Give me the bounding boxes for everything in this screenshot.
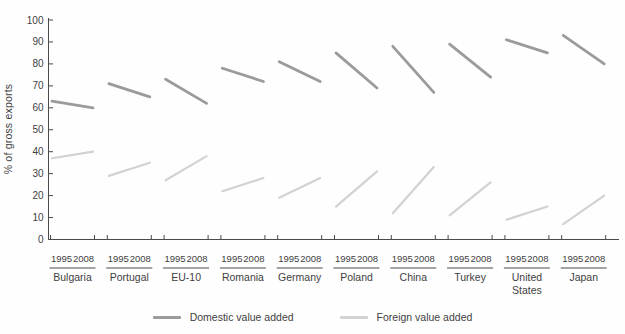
foreign-value-line (393, 167, 434, 213)
year-label-1995: 1995 (449, 253, 470, 264)
year-label-2008: 2008 (130, 253, 151, 264)
year-label-2008: 2008 (584, 253, 605, 264)
country-label: Poland (340, 271, 373, 283)
y-tick-label: 40 (32, 146, 44, 157)
domestic-value-line (52, 101, 93, 108)
y-tick-label: 0 (38, 234, 44, 245)
y-tick-label: 80 (32, 58, 44, 69)
foreign-value-line (563, 196, 604, 225)
domestic-value-line (336, 53, 377, 88)
year-label-1995: 1995 (278, 253, 299, 264)
year-label-2008: 2008 (471, 253, 492, 264)
year-label-2008: 2008 (243, 253, 264, 264)
year-label-1995: 1995 (108, 253, 129, 264)
year-label-1995: 1995 (392, 253, 413, 264)
year-label-2008: 2008 (414, 253, 435, 264)
legend-item-domestic: Domestic value added (153, 311, 294, 323)
foreign-value-line (222, 178, 263, 191)
legend: Domestic value added Foreign value added (0, 311, 625, 323)
y-tick-label: 30 (32, 168, 44, 179)
y-tick-label: 100 (27, 15, 44, 26)
foreign-value-line (279, 178, 320, 198)
domestic-value-line (166, 79, 207, 103)
country-label: States (512, 284, 542, 296)
legend-label-foreign: Foreign value added (377, 311, 473, 323)
country-label: Portugal (110, 271, 149, 283)
year-label-1995: 1995 (221, 253, 242, 264)
foreign-value-line (52, 152, 93, 159)
country-label: Bulgaria (53, 271, 92, 283)
foreign-value-line (336, 171, 377, 206)
country-label: United (512, 271, 543, 283)
year-label-2008: 2008 (73, 253, 94, 264)
country-label: China (400, 271, 428, 283)
year-label-2008: 2008 (187, 253, 208, 264)
y-tick-label: 90 (32, 36, 44, 47)
y-tick-label: 60 (32, 102, 44, 113)
domestic-value-line (222, 68, 263, 81)
country-label: Romania (222, 271, 264, 283)
country-label: Turkey (454, 271, 486, 283)
year-label-2008: 2008 (357, 253, 378, 264)
foreign-value-line (450, 182, 491, 215)
y-tick-label: 50 (32, 124, 44, 135)
legend-item-foreign: Foreign value added (340, 311, 473, 323)
y-tick-label: 10 (32, 212, 44, 223)
domestic-value-line (109, 84, 150, 97)
year-label-1995: 1995 (335, 253, 356, 264)
year-label-2008: 2008 (527, 253, 548, 264)
foreign-value-line (506, 207, 547, 220)
chart-page: % of gross exports 010203040506070809010… (0, 0, 625, 334)
domestic-value-line (450, 44, 491, 77)
year-label-1995: 1995 (165, 253, 186, 264)
country-label: Japan (569, 271, 598, 283)
domestic-value-line (563, 35, 604, 64)
y-tick-label: 20 (32, 190, 44, 201)
domestic-value-line (279, 62, 320, 82)
domestic-value-line (393, 46, 434, 92)
legend-label-domestic: Domestic value added (190, 311, 294, 323)
y-tick-label: 70 (32, 80, 44, 91)
foreign-value-line (166, 156, 207, 180)
country-label: Germany (278, 271, 322, 283)
year-label-1995: 1995 (562, 253, 583, 264)
year-label-1995: 1995 (51, 253, 72, 264)
domestic-value-line (506, 40, 547, 53)
year-label-2008: 2008 (300, 253, 321, 264)
foreign-value-line (109, 163, 150, 176)
domestic-line-swatch (153, 316, 181, 319)
slope-chart: 010203040506070809010019952008Bulgaria19… (0, 0, 625, 334)
foreign-line-swatch (340, 316, 368, 319)
year-label-1995: 1995 (505, 253, 526, 264)
country-label: EU-10 (171, 271, 201, 283)
